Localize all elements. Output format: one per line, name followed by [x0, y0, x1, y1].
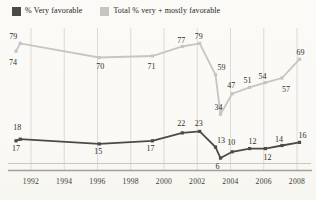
- x-tick-label: 2002: [189, 177, 205, 186]
- data-point-label: 17: [146, 144, 154, 153]
- data-point-label: 57: [282, 85, 290, 94]
- data-point-marker: [14, 139, 17, 142]
- data-point-marker: [151, 139, 154, 142]
- data-point-label: 34: [215, 103, 223, 112]
- data-point-label: 10: [227, 138, 235, 147]
- data-point-label: 23: [195, 119, 203, 128]
- legend-label-total-favorable: Total % very + mostly favorable: [113, 6, 220, 16]
- data-point-marker: [214, 146, 217, 149]
- chart-legend: % Very favorable Total % very + mostly f…: [12, 6, 220, 16]
- x-tick-label: 2000: [156, 177, 172, 186]
- legend-item-very-favorable: % Very favorable: [12, 6, 82, 16]
- data-point-label: 79: [195, 32, 203, 41]
- data-point-label: 16: [299, 131, 307, 140]
- data-point-marker: [264, 81, 267, 84]
- data-point-label: 18: [13, 123, 21, 132]
- data-point-label: 79: [9, 32, 17, 41]
- x-tick-label: 1994: [56, 177, 72, 186]
- x-tick-label: 1998: [123, 177, 139, 186]
- data-point-marker: [298, 141, 301, 144]
- series-line: [16, 43, 300, 114]
- data-point-label: 47: [227, 81, 235, 90]
- data-point-label: 12: [263, 153, 271, 162]
- data-point-label: 54: [258, 72, 266, 81]
- data-point-marker: [264, 147, 267, 150]
- very-favorable-swatch-icon: [12, 7, 21, 16]
- plot-area: 1992199419961998200020022004200620087479…: [0, 0, 316, 200]
- data-point-label: 12: [249, 137, 257, 146]
- data-point-marker: [98, 56, 101, 59]
- data-point-label: 14: [275, 135, 283, 144]
- data-point-label: 17: [12, 144, 20, 153]
- data-point-marker: [298, 58, 301, 61]
- data-point-label: 13: [217, 136, 225, 145]
- data-point-marker: [219, 113, 222, 116]
- data-point-marker: [219, 157, 222, 160]
- data-point-label: 77: [177, 36, 185, 45]
- data-point-label: 74: [9, 58, 17, 67]
- x-tick-label: 1992: [23, 177, 39, 186]
- data-point-marker: [231, 150, 234, 153]
- data-point-marker: [19, 42, 22, 45]
- data-point-label: 69: [297, 48, 305, 57]
- data-point-marker: [248, 147, 251, 150]
- data-point-marker: [248, 86, 251, 89]
- legend-label-very-favorable: % Very favorable: [25, 6, 82, 16]
- total-favorable-swatch-icon: [100, 7, 109, 16]
- data-point-marker: [198, 42, 201, 45]
- favorability-line-chart: % Very favorable Total % very + mostly f…: [0, 0, 316, 200]
- x-tick-label: 1996: [89, 177, 105, 186]
- data-point-label: 22: [177, 119, 185, 128]
- data-point-label: 15: [94, 147, 102, 156]
- data-point-marker: [19, 138, 22, 141]
- series-line: [16, 131, 300, 158]
- data-point-marker: [14, 50, 17, 53]
- legend-item-total-favorable: Total % very + mostly favorable: [100, 6, 220, 16]
- data-point-label: 70: [96, 62, 104, 71]
- x-tick-label: 2006: [256, 177, 272, 186]
- x-tick-label: 2008: [289, 177, 305, 186]
- data-point-marker: [280, 144, 283, 147]
- data-point-marker: [280, 76, 283, 79]
- data-point-marker: [198, 130, 201, 133]
- data-point-marker: [214, 73, 217, 76]
- data-point-marker: [181, 45, 184, 48]
- data-point-marker: [181, 131, 184, 134]
- data-point-label: 51: [244, 76, 252, 85]
- data-point-marker: [98, 142, 101, 145]
- data-point-label: 59: [218, 63, 226, 72]
- x-tick-label: 2004: [222, 177, 238, 186]
- data-point-label: 71: [147, 62, 155, 71]
- data-point-marker: [151, 54, 154, 57]
- data-point-marker: [231, 92, 234, 95]
- data-point-label: 6: [216, 162, 220, 171]
